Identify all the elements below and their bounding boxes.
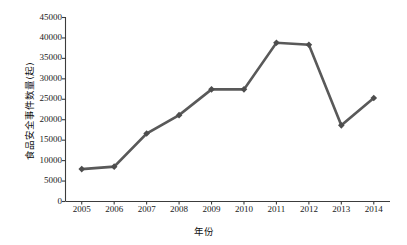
data-point-marker — [78, 166, 85, 173]
plot-area — [0, 0, 407, 245]
axis-frame — [66, 17, 391, 202]
line-chart: 食品安全事件数量(起) 0500010000150002000025000300… — [0, 0, 407, 245]
data-series-line — [82, 43, 374, 169]
x-axis-title: 年份 — [0, 224, 407, 238]
